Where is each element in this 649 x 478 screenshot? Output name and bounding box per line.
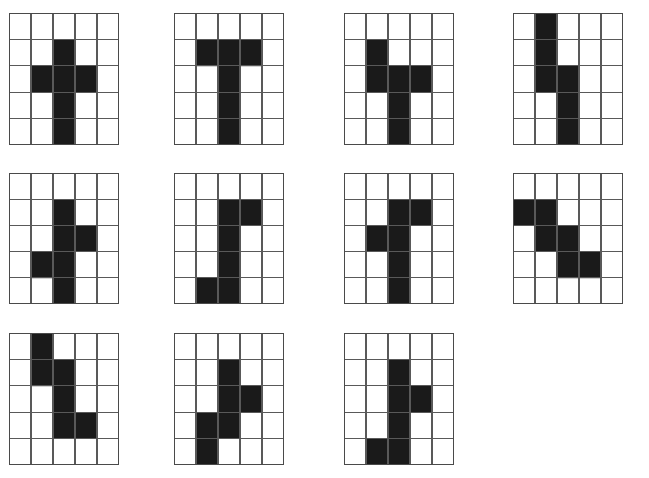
shape-grid-1[interactable] <box>9 13 119 145</box>
filled-cell <box>53 386 75 413</box>
filled-cell <box>53 412 75 439</box>
filled-cell <box>557 252 579 279</box>
filled-cell <box>535 66 557 93</box>
grid-canvas <box>174 13 284 145</box>
filled-cell <box>31 333 53 360</box>
filled-cell <box>535 225 557 252</box>
filled-cell <box>410 199 432 226</box>
filled-cell <box>388 439 410 465</box>
filled-cell <box>388 386 410 413</box>
filled-cell <box>218 359 240 386</box>
filled-cell <box>557 119 579 145</box>
filled-cell <box>53 66 75 93</box>
grid-canvas <box>513 13 623 145</box>
filled-cell <box>218 225 240 252</box>
filled-cell <box>218 252 240 279</box>
shape-grid-9[interactable] <box>9 333 119 465</box>
filled-cell <box>557 225 579 252</box>
filled-cell <box>218 386 240 413</box>
filled-cell <box>388 252 410 279</box>
filled-cell <box>53 92 75 119</box>
filled-cell <box>240 386 262 413</box>
filled-cell <box>53 252 75 279</box>
filled-cell <box>53 119 75 145</box>
grid-canvas <box>344 13 454 145</box>
filled-cell <box>388 225 410 252</box>
shape-grid-5[interactable] <box>9 173 119 304</box>
filled-cell <box>388 119 410 145</box>
filled-cell <box>218 39 240 66</box>
filled-cell <box>196 278 218 304</box>
filled-cell <box>388 412 410 439</box>
shape-grid-11[interactable] <box>344 333 454 465</box>
filled-cell <box>218 119 240 145</box>
filled-cell <box>579 252 601 279</box>
filled-cell <box>75 66 97 93</box>
filled-cell <box>388 359 410 386</box>
filled-cell <box>196 439 218 465</box>
grid-canvas <box>344 333 454 465</box>
filled-cell <box>196 412 218 439</box>
filled-cell <box>31 359 53 386</box>
filled-cell <box>240 199 262 226</box>
filled-cell <box>218 412 240 439</box>
grid-canvas <box>344 173 454 304</box>
grid-canvas <box>9 333 119 465</box>
shape-grid-2[interactable] <box>174 13 284 145</box>
filled-cell <box>557 92 579 119</box>
filled-cell <box>53 39 75 66</box>
filled-cell <box>535 199 557 226</box>
filled-cell <box>388 92 410 119</box>
grid-canvas <box>174 333 284 465</box>
filled-cell <box>410 386 432 413</box>
filled-cell <box>218 199 240 226</box>
shape-grid-4[interactable] <box>513 13 623 145</box>
filled-cell <box>75 225 97 252</box>
filled-cell <box>366 39 388 66</box>
filled-cell <box>75 412 97 439</box>
filled-cell <box>388 66 410 93</box>
filled-cell <box>388 278 410 304</box>
puzzle-sheet <box>0 0 649 478</box>
filled-cell <box>366 439 388 465</box>
filled-cell <box>388 199 410 226</box>
filled-cell <box>53 199 75 226</box>
filled-cell <box>53 278 75 304</box>
shape-grid-7[interactable] <box>344 173 454 304</box>
filled-cell <box>53 359 75 386</box>
filled-cell <box>31 66 53 93</box>
filled-cell <box>535 39 557 66</box>
filled-cell <box>535 13 557 40</box>
filled-cell <box>31 252 53 279</box>
grid-canvas <box>9 13 119 145</box>
filled-cell <box>366 225 388 252</box>
shape-grid-8[interactable] <box>513 173 623 304</box>
shape-grid-6[interactable] <box>174 173 284 304</box>
shape-grid-3[interactable] <box>344 13 454 145</box>
filled-cell <box>218 92 240 119</box>
filled-cell <box>240 39 262 66</box>
filled-cell <box>218 278 240 304</box>
filled-cell <box>218 66 240 93</box>
filled-cell <box>53 225 75 252</box>
grid-canvas <box>513 173 623 304</box>
filled-cell <box>366 66 388 93</box>
filled-cell <box>513 199 535 226</box>
shape-grid-10[interactable] <box>174 333 284 465</box>
grid-canvas <box>9 173 119 304</box>
filled-cell <box>196 39 218 66</box>
grid-canvas <box>174 173 284 304</box>
filled-cell <box>557 66 579 93</box>
filled-cell <box>410 66 432 93</box>
